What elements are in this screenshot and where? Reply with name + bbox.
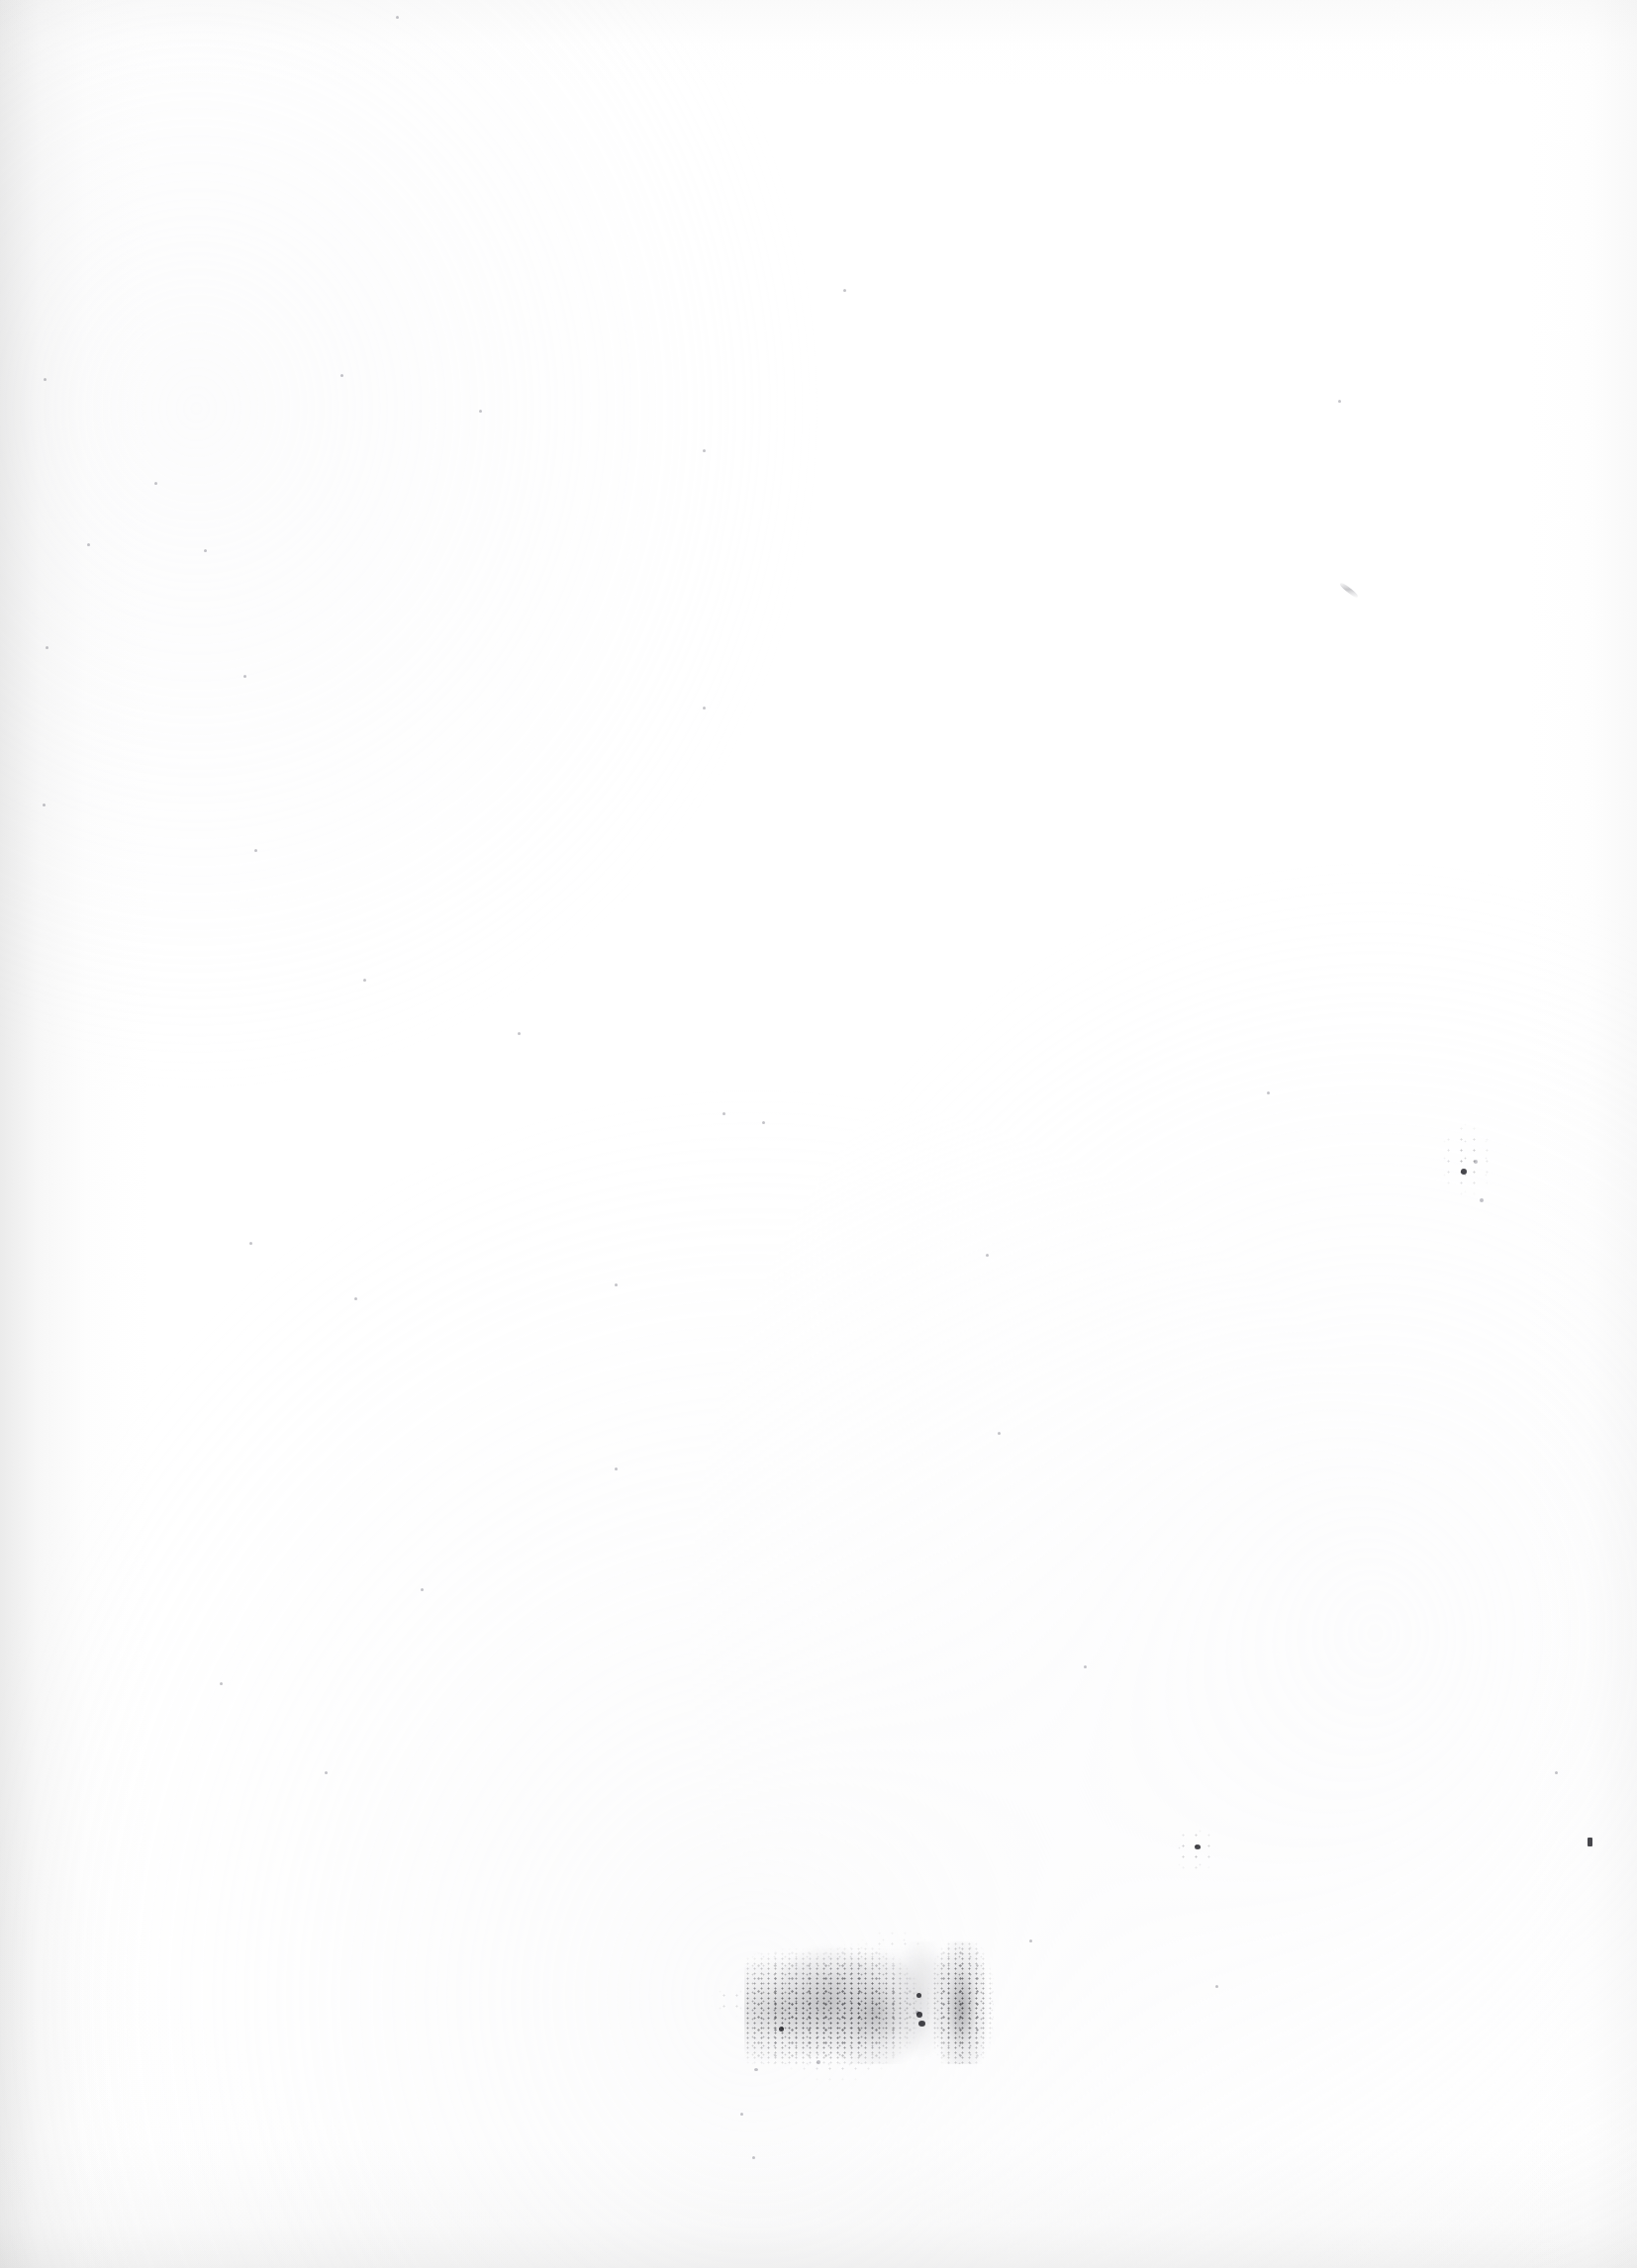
paper-surface <box>0 0 1637 2268</box>
scanned-page <box>0 0 1637 2268</box>
